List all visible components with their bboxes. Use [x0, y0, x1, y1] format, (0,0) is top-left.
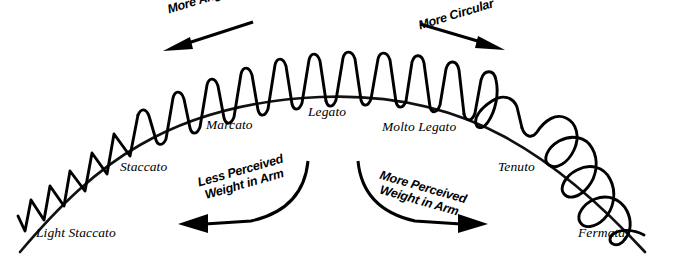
diagram-canvas: Light Staccato Staccato Marcato Legato M… — [0, 0, 679, 260]
arc-label-staccato: Staccato — [120, 160, 167, 175]
arc-label-legato: Legato — [308, 105, 346, 120]
arc-label-light-staccato: Light Staccato — [36, 226, 116, 241]
arc-label-marcato: Marcato — [206, 118, 253, 133]
arrow-left-icon — [163, 22, 253, 51]
articulation-diagram-svg — [0, 0, 679, 260]
articulation-wave-icon — [18, 52, 644, 245]
arc-label-fermata: Fermata — [578, 226, 625, 241]
arc-label-molto-legato: Molto Legato — [382, 120, 456, 135]
arc-label-tenuto: Tenuto — [498, 160, 535, 175]
